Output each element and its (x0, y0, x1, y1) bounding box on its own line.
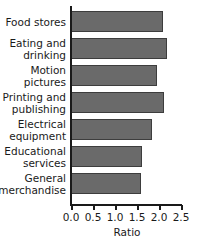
bar-row: Generalmerchandise (0, 170, 204, 197)
category-label-line: merchandise (0, 184, 66, 196)
category-label-line: General (25, 172, 66, 184)
category-label-line: pictures (24, 76, 66, 88)
category-label: Electricalequipment (0, 116, 66, 143)
category-label: Educationalservices (0, 143, 66, 170)
bar-track (71, 65, 157, 86)
x-tick (71, 205, 73, 210)
category-label: Motionpictures (0, 62, 66, 89)
category-label: Food stores (0, 8, 66, 35)
y-axis-line (70, 6, 72, 205)
category-label-line: equipment (9, 130, 66, 142)
category-label-line: Motion (30, 64, 66, 76)
category-label: Generalmerchandise (0, 170, 66, 197)
bar (71, 119, 152, 140)
x-tick (115, 205, 117, 210)
category-label-line: Educational (4, 145, 66, 157)
bar-track (71, 119, 152, 140)
bar-row: Eating anddrinking (0, 35, 204, 62)
bar-track (71, 38, 167, 59)
category-label-line: services (23, 157, 66, 169)
x-tick (159, 205, 161, 210)
bar-track (71, 146, 142, 167)
category-label-line: publishing (12, 103, 66, 115)
x-tick (137, 205, 139, 210)
bar-track (71, 92, 164, 113)
x-axis-title: Ratio (71, 226, 183, 238)
x-axis-line (70, 204, 182, 206)
bar-row: Motionpictures (0, 62, 204, 89)
bar-row: Educationalservices (0, 143, 204, 170)
bar (71, 146, 142, 167)
category-label-line: Printing and (3, 91, 66, 103)
bar (71, 38, 167, 59)
bar (71, 11, 163, 32)
bar (71, 92, 164, 113)
bar-track (71, 173, 141, 194)
bar (71, 173, 141, 194)
bar (71, 65, 157, 86)
bar-row: Electricalequipment (0, 116, 204, 143)
x-tick (93, 205, 95, 210)
category-label-line: drinking (23, 49, 66, 61)
category-label-line: Eating and (9, 37, 66, 49)
x-tick-label: 2.5 (166, 211, 196, 223)
category-label-line: Electrical (18, 118, 66, 130)
horizontal-bar-chart: Food storesEating anddrinkingMotionpictu… (0, 0, 204, 243)
bar-row: Food stores (0, 8, 204, 35)
bar-track (71, 11, 163, 32)
plot-area: Food storesEating anddrinkingMotionpictu… (0, 0, 204, 205)
category-label: Eating anddrinking (0, 35, 66, 62)
category-label: Printing andpublishing (0, 89, 66, 116)
bar-row: Printing andpublishing (0, 89, 204, 116)
category-label-line: Food stores (5, 16, 66, 28)
x-tick (181, 205, 183, 210)
